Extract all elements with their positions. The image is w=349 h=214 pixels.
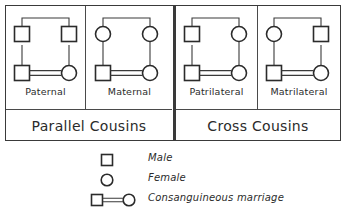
symbol-square-top-right	[62, 27, 77, 42]
cell-label-paternal: Paternal	[6, 86, 85, 97]
legend-item-consanguineous-marriage: Consanguineous marriage	[90, 190, 330, 210]
legend-item-male: Male	[90, 150, 330, 170]
legend-label-consanguineous-marriage: Consanguineous marriage	[148, 192, 284, 203]
pedigree-diagram-maternal	[86, 6, 173, 88]
symbol-square-bottom-left	[15, 66, 30, 81]
symbol-circle-top-right	[143, 27, 158, 42]
symbol-circle-bottom-right	[62, 66, 77, 81]
pedigree-cell-patrilateral: Patrilateral	[176, 6, 257, 109]
consanguineous-marriage-line	[200, 71, 232, 76]
legend-item-female: Female	[90, 170, 330, 190]
sub-label-rule-parallel	[6, 109, 172, 110]
group-label-parallel-cousins: Parallel Cousins	[6, 113, 172, 139]
pedigree-cell-paternal: Paternal	[6, 6, 85, 109]
pedigree-cell-matrilateral: Matrilateral	[258, 6, 340, 109]
symbol-square-top-left	[15, 27, 30, 42]
legend: Male Female Consanguineous marriage	[90, 150, 330, 210]
symbol-circle-bottom-right	[232, 66, 247, 81]
symbol-circle-top-left	[96, 27, 111, 42]
symbol-square-bottom-left	[267, 66, 282, 81]
sub-label-rule-cross	[176, 109, 340, 110]
legend-label-male: Male	[148, 152, 173, 163]
consanguineous-marriage-line	[111, 71, 143, 76]
pedigree-diagram-patrilateral	[176, 6, 257, 88]
symbol-square-bottom-left	[185, 66, 200, 81]
legend-label-female: Female	[148, 172, 186, 183]
cell-label-matrilateral: Matrilateral	[258, 86, 340, 97]
pedigree-diagram-paternal	[6, 6, 85, 88]
symbol-circle-top-left	[267, 27, 282, 42]
symbol-square-top-left	[185, 27, 200, 42]
pedigree-diagram-matrilateral	[258, 6, 340, 88]
sibling-link	[103, 18, 150, 26]
group-label-cross-cousins: Cross Cousins	[176, 113, 340, 139]
pedigree-cell-maternal: Maternal	[86, 6, 173, 109]
consanguineous-marriage-line	[282, 71, 314, 76]
consanguineous-marriage-icon	[90, 190, 144, 210]
symbol-square-top-right	[314, 27, 329, 42]
symbol-circle-bottom-right	[314, 66, 329, 81]
consanguineous-marriage-line	[30, 71, 62, 76]
symbol-square-bottom-left	[96, 66, 111, 81]
female-circle-icon	[90, 170, 144, 190]
symbol-circle-top-right	[232, 27, 247, 42]
cell-label-maternal: Maternal	[86, 86, 173, 97]
male-square-icon	[90, 150, 144, 170]
symbol-circle-bottom-right	[143, 66, 158, 81]
cell-label-patrilateral: Patrilateral	[176, 86, 257, 97]
